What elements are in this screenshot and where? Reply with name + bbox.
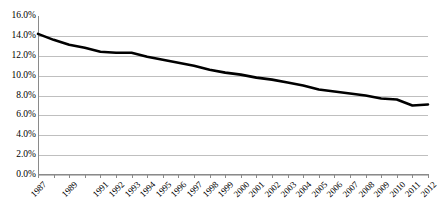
gridline (38, 175, 428, 176)
x-axis-tick (256, 174, 257, 178)
x-axis-tick (350, 174, 351, 178)
x-axis-tick (147, 174, 148, 178)
x-axis-tick (412, 174, 413, 178)
x-axis-tick (428, 174, 429, 178)
gridline (38, 36, 428, 37)
y-axis-tick-label: 12.0% (2, 51, 36, 60)
y-axis-tick-label: 0.0% (2, 170, 36, 179)
x-axis-tick (319, 174, 320, 178)
x-axis-tick (116, 174, 117, 178)
gridline (38, 135, 428, 136)
x-axis-tick (54, 174, 55, 178)
x-axis-tick (272, 174, 273, 178)
x-axis-tick (225, 174, 226, 178)
x-axis-tick (366, 174, 367, 178)
x-axis-tick-label: 2012 (419, 180, 438, 199)
y-axis-tick-label: 16.0% (2, 11, 36, 20)
y-axis-tick-label: 4.0% (2, 130, 36, 139)
x-axis-tick-label: 1989 (60, 180, 79, 199)
x-axis-tick (163, 174, 164, 178)
x-axis-tick (194, 174, 195, 178)
x-axis-tick (178, 174, 179, 178)
line-chart: 16.0%14.0%12.0%10.0%8.0%6.0%4.0%2.0%0.0%… (0, 0, 442, 220)
y-axis-tick-label: 2.0% (2, 150, 36, 159)
x-axis-tick (38, 174, 39, 178)
x-axis-tick (241, 174, 242, 178)
y-axis-tick-labels: 16.0%14.0%12.0%10.0%8.0%6.0%4.0%2.0%0.0% (0, 0, 36, 220)
x-axis-tick (210, 174, 211, 178)
x-axis-tick (132, 174, 133, 178)
x-axis-tick (397, 174, 398, 178)
gridline (38, 155, 428, 156)
x-axis-line (38, 174, 428, 175)
x-axis-tick (85, 174, 86, 178)
gridline (38, 56, 428, 57)
y-axis-tick-label: 14.0% (2, 31, 36, 40)
plot-area (38, 16, 428, 175)
x-axis-tick (334, 174, 335, 178)
x-axis-tick (69, 174, 70, 178)
x-axis-tick (100, 174, 101, 178)
gridline (38, 96, 428, 97)
y-axis-tick-label: 10.0% (2, 71, 36, 80)
y-axis-tick-label: 8.0% (2, 91, 36, 100)
x-axis-tick (303, 174, 304, 178)
gridline (38, 76, 428, 77)
gridline (38, 115, 428, 116)
y-axis-line (38, 16, 39, 175)
y-axis-tick-label: 6.0% (2, 110, 36, 119)
x-axis-tick (288, 174, 289, 178)
x-axis-tick (381, 174, 382, 178)
